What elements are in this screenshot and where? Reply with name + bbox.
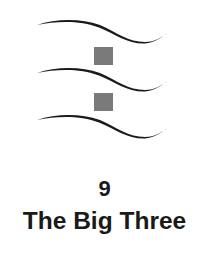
wave-line-icon bbox=[37, 68, 168, 91]
square-icon bbox=[94, 47, 113, 65]
chapter-ornament bbox=[0, 0, 209, 150]
chapter-number: 9 bbox=[0, 177, 209, 201]
chapter-title: The Big Three bbox=[0, 206, 209, 236]
wave-line-icon bbox=[37, 20, 168, 43]
wave-line-icon bbox=[37, 115, 168, 138]
square-icon bbox=[94, 93, 113, 111]
